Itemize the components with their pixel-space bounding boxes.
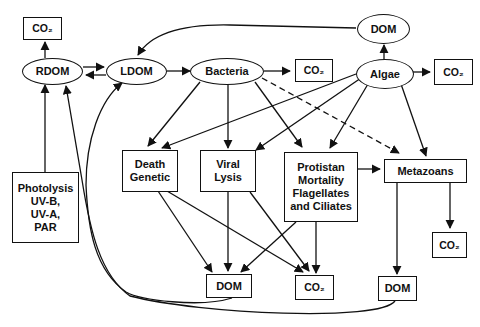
edge-algae-death [162,74,356,148]
node-label: CO₂ [304,281,324,294]
node-label: Photolysis UV-B, UV-A, PAR [18,182,74,234]
algae-node: Algae [356,59,414,89]
photolysis-box: Photolysis UV-B, UV-A, PAR [12,172,79,243]
protistan-mortality-box: Protistan Mortality Flagellates and Cili… [284,152,358,222]
node-label: RDOM [36,65,70,78]
bacteria-node: Bacteria [190,58,264,85]
node-label: CO₂ [32,22,52,35]
edge-bacteria-metazoans [262,78,399,153]
co2-box-algae: CO₂ [434,59,473,85]
node-label: LDOM [120,65,152,78]
node-label: DOM [371,23,397,36]
node-label: Algae [370,68,400,81]
dom-node-algae: DOM [357,14,410,44]
node-label: CO₂ [304,64,324,77]
edge-algae-protistan [330,84,368,148]
node-label: DOM [385,282,411,295]
node-label: Metazoans [397,165,453,178]
edge-bacteria-protistan [255,82,302,147]
edge-algae-viral [256,78,361,150]
co2-box-metazoans: CO₂ [432,232,467,258]
node-label: Viral Lysis [214,158,242,184]
dom-box-bottom-mid: DOM [206,274,252,298]
death-genetic-box: Death Genetic [122,150,178,192]
node-label: Protistan Mortality Flagellates and Cili… [290,161,352,213]
edge-dom-ldom [138,25,356,55]
edge-algae-metazoans [401,84,426,156]
edge-death-dom [158,191,212,272]
rdom-node: RDOM [22,58,83,85]
edge-protistan-dom [241,222,296,272]
co2-box-rdom: CO₂ [23,17,62,40]
node-label: DOM [216,280,242,293]
node-label: Bacteria [205,65,248,78]
edge-death-co2 [167,191,303,272]
node-label: CO₂ [443,66,463,79]
metazoans-box: Metazoans [384,159,467,183]
viral-lysis-box: Viral Lysis [200,150,256,192]
co2-box-bottom: CO₂ [295,275,334,300]
ldom-node: LDOM [106,58,167,85]
node-label: CO₂ [439,239,459,252]
dom-box-bottom-right: DOM [378,276,417,301]
co2-box-bacteria: CO₂ [295,59,333,82]
node-label: Death Genetic [130,158,170,184]
